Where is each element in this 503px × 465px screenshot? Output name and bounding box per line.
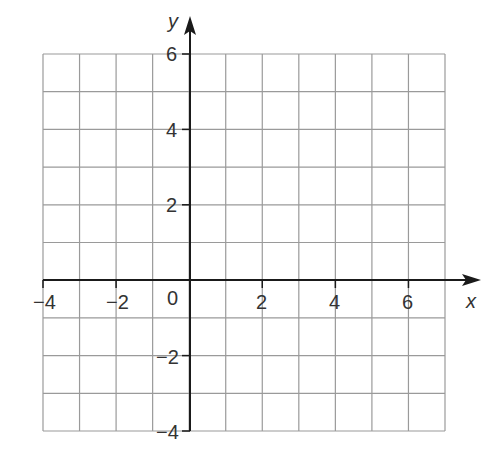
y-tick-label: −4 — [156, 421, 179, 443]
x-axis-label: x — [465, 290, 477, 312]
x-tick-label: 4 — [329, 291, 340, 313]
coordinate-grid: x y 0 −4 −2 2 4 6 6 4 2 −2 −4 — [0, 0, 503, 465]
y-axis-label: y — [166, 10, 179, 32]
x-tick-label: −4 — [33, 291, 56, 313]
y-tick-label: 6 — [166, 43, 177, 65]
y-tick-label: −2 — [156, 346, 179, 368]
x-tick-label: −2 — [106, 291, 129, 313]
y-tick-label: 2 — [166, 194, 177, 216]
x-tick-label: 6 — [402, 291, 413, 313]
origin-label: 0 — [167, 287, 178, 309]
grid-lines — [43, 54, 445, 431]
x-tick-label: 2 — [256, 291, 267, 313]
y-tick-label: 4 — [166, 119, 177, 141]
